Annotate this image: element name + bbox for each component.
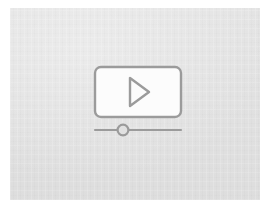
- slider-knob-icon[interactable]: [118, 125, 129, 136]
- screenshot-root: Grey placeholder image showing a video p…: [0, 0, 274, 212]
- video-player-placeholder-icon[interactable]: [85, 60, 189, 148]
- video-player-glyph-svg: [85, 60, 189, 148]
- video-screen-icon[interactable]: [95, 67, 181, 117]
